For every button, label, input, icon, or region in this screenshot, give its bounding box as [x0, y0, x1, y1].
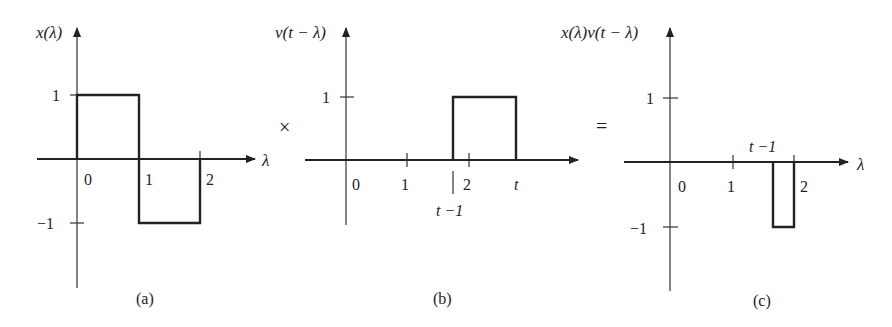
y-axis-label: v(t − λ) [275, 23, 326, 42]
y-tick-label-neg1: −1 [37, 215, 54, 232]
x-axis-label: λ [856, 155, 864, 174]
caption-c: (c) [753, 292, 771, 310]
caption-a: (a) [136, 290, 154, 308]
x-tick-label-1: 1 [145, 171, 153, 188]
panel-a: x(λ) λ 0 1 2 1 −1 (a) [35, 23, 269, 308]
x-tick-label-0: 0 [84, 171, 92, 188]
y-axis-label: x(λ)v(t − λ) [560, 23, 638, 42]
y-axis-label: x(λ) [35, 23, 63, 42]
times-operator: × [279, 116, 290, 138]
x-tick-label-2: 2 [463, 176, 471, 193]
x-tick-label-1: 1 [401, 176, 409, 193]
x-tick-label-2: 2 [206, 171, 214, 188]
y-tick-label-1: 1 [646, 90, 654, 107]
x-axis-label: λ [261, 151, 269, 170]
panel-c: x(λ)v(t − λ) λ 0 1 2 t −1 1 −1 (c) [560, 23, 864, 310]
y-tick-label-1: 1 [52, 87, 60, 104]
x-tick-label-0: 0 [352, 176, 360, 193]
equals-operator: = [596, 115, 607, 137]
caption-b: (b) [433, 290, 452, 308]
t-minus-1-label: t −1 [749, 138, 776, 155]
x-tick-label-t: t [514, 176, 519, 193]
panel-b: v(t − λ) 0 1 2 t t −1 1 (b) [275, 23, 578, 308]
signal-v [453, 97, 516, 160]
t-minus-1-label: t −1 [436, 202, 463, 219]
x-tick-label-2: 2 [800, 178, 808, 195]
y-tick-label-1: 1 [322, 89, 330, 106]
y-tick-label-neg1: −1 [630, 220, 647, 237]
x-tick-label-0: 0 [678, 178, 686, 195]
convolution-figure: x(λ) λ 0 1 2 1 −1 (a) × v(t − λ) 0 1 2 t… [0, 0, 892, 327]
x-tick-label-1: 1 [727, 178, 735, 195]
signal-product [773, 162, 794, 227]
